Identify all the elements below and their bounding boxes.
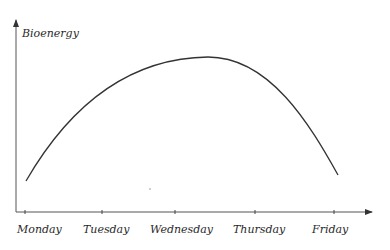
bioenergy-curve <box>26 57 338 181</box>
x-label-monday: Monday <box>16 223 63 236</box>
x-label-wednesday: Wednesday <box>150 223 214 236</box>
stray-dot <box>149 188 150 189</box>
x-label-friday: Friday <box>311 223 349 236</box>
x-label-tuesday: Tuesday <box>83 223 130 236</box>
bioenergy-chart: Bioenergy Monday Tuesday Wednesday Thurs… <box>0 0 390 250</box>
y-axis-label: Bioenergy <box>21 27 80 40</box>
x-label-thursday: Thursday <box>233 223 286 236</box>
